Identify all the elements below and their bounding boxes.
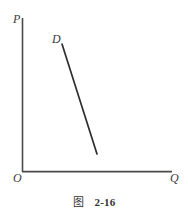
y-axis-label: P [13, 13, 20, 25]
figure-caption: 图2-16 [0, 193, 188, 209]
demand-curve-label: D [52, 33, 61, 45]
caption-number: 2-16 [95, 196, 116, 208]
figure-container: P D O Q 图2-16 [0, 0, 188, 220]
origin-label: O [13, 172, 22, 184]
demand-curve-line [62, 44, 97, 154]
x-axis-label: Q [170, 172, 179, 184]
demand-curve-plot [0, 0, 188, 188]
caption-word: 图 [73, 193, 84, 209]
